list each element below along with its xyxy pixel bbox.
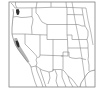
map-svg [0, 0, 99, 95]
range-map [0, 0, 99, 95]
